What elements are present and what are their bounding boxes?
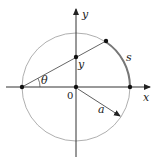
y-axis-label: y	[81, 8, 89, 21]
y-point-label: y	[77, 58, 85, 71]
x-axis-label: x	[143, 91, 150, 104]
radius-label: a	[98, 103, 105, 116]
circle-angle-diagram: y x 0 θ y s a	[0, 0, 158, 162]
origin-label: 0	[67, 90, 73, 101]
arc-s	[106, 42, 130, 87]
point-origin	[74, 85, 78, 89]
theta-label: θ	[41, 74, 48, 87]
theta-arc	[38, 78, 40, 87]
point-top	[104, 39, 108, 43]
arc-s-label: s	[126, 51, 132, 64]
chord-line	[22, 41, 106, 87]
point-left	[20, 85, 24, 89]
point-right	[128, 85, 132, 89]
